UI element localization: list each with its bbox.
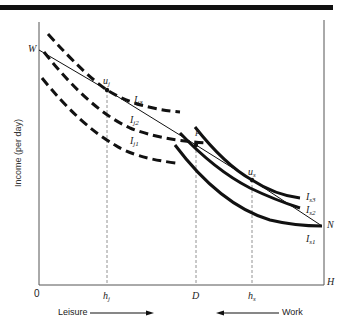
curve-ij2 <box>44 52 206 143</box>
label-h: H <box>327 277 334 287</box>
label-ij1: Ij1 <box>130 136 139 148</box>
point-uj <box>105 88 109 92</box>
label-is1: Is1 <box>306 234 316 246</box>
label-uj: uj <box>103 76 110 88</box>
y-axis-label: Income (per day) <box>13 103 23 203</box>
label-p: P <box>195 130 200 138</box>
label-work: Work <box>282 308 303 317</box>
tick-hj: hj <box>103 291 110 303</box>
tick-hs: hs <box>248 291 256 303</box>
label-ij2: Ij2 <box>130 115 139 127</box>
label-leisure: Leisure <box>58 308 88 317</box>
label-is3: Is3 <box>306 192 316 204</box>
label-ij3: Ij3 <box>134 95 143 107</box>
label-n: N <box>327 220 334 230</box>
label-us: us <box>248 167 256 179</box>
label-origin: 0 <box>34 289 40 299</box>
leisure-arrowhead-icon <box>146 311 154 316</box>
label-is2: Is2 <box>306 205 316 217</box>
tick-d: D <box>192 291 199 301</box>
work-arrowhead-icon <box>216 311 224 316</box>
curve-is1 <box>175 145 322 226</box>
point-p <box>194 143 198 147</box>
curve-ij3 <box>48 34 180 112</box>
label-w: W <box>28 44 36 54</box>
indifference-diagram <box>0 0 345 328</box>
